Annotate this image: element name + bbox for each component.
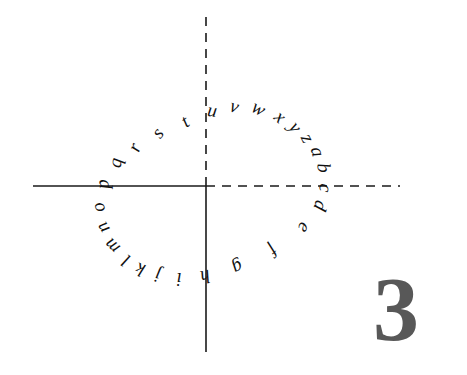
ring-letter-n: n xyxy=(91,219,114,238)
ring-letter-c: c xyxy=(315,183,337,194)
ring-letter-v: v xyxy=(228,95,242,118)
ring-letter-i: i xyxy=(176,269,181,290)
ring-letter-r: r xyxy=(123,139,145,154)
ring-letter-h: h xyxy=(198,266,212,289)
ring-letter-y: y xyxy=(284,116,307,137)
figure-number-label: 3 xyxy=(373,263,419,355)
ring-letter-d: d xyxy=(309,198,332,214)
ring-letter-a: a xyxy=(307,144,330,159)
ring-letter-t: t xyxy=(177,111,194,132)
ring-letter-z: z xyxy=(296,129,319,146)
ring-letter-u: u xyxy=(206,99,218,121)
ring-letter-x: x xyxy=(270,105,291,127)
ring-letter-j: j xyxy=(153,265,165,287)
ring-letter-g: g xyxy=(229,256,247,279)
ring-letter-s: s xyxy=(147,123,168,142)
ring-letter-e: e xyxy=(294,219,316,237)
ring-letter-q: q xyxy=(104,156,126,169)
ring-letter-m: m xyxy=(99,234,123,259)
ring-letter-l: l xyxy=(118,251,134,272)
ring-letter-f: f xyxy=(262,241,282,262)
alphabet-letter-ring: uvwxyzabcdefghijklmnopqrst xyxy=(87,95,338,290)
ring-letter-p: p xyxy=(91,179,113,192)
ring-letter-k: k xyxy=(132,258,148,281)
ring-letter-b: b xyxy=(313,162,335,174)
figure-canvas: uvwxyzabcdefghijklmnopqrst 3 xyxy=(0,0,467,375)
ring-letter-w: w xyxy=(248,96,269,121)
ring-letter-o: o xyxy=(87,200,110,216)
